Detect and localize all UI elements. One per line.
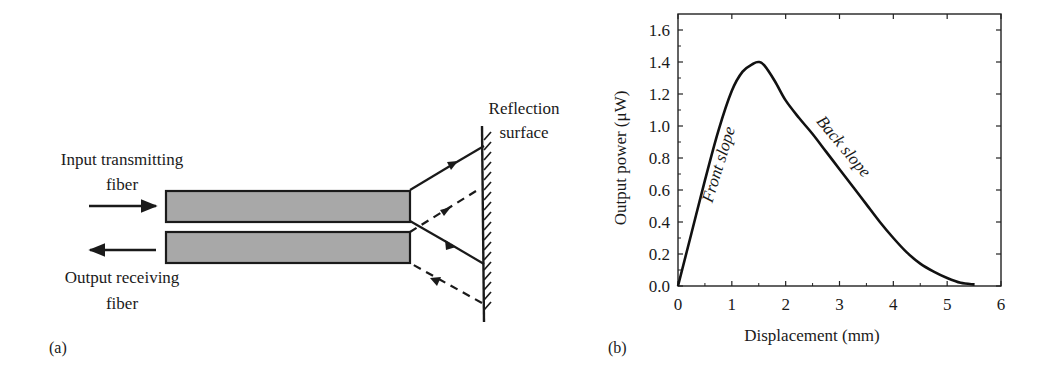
x-tick-label: 5 [943, 295, 952, 314]
x-tick-label: 6 [997, 295, 1006, 314]
y-tick-label: 1.2 [649, 85, 670, 104]
x-tick-label: 1 [728, 295, 737, 314]
y-axis-label: Output power (μW) [611, 91, 630, 226]
front-slope-annotation: Front slope [698, 124, 739, 206]
y-tick-label: 0.2 [649, 245, 670, 264]
y-tick-label: 0.6 [649, 181, 670, 200]
y-tick-label: 0.4 [649, 213, 671, 232]
panel-b-label: (b) [608, 339, 627, 357]
y-tick-label: 1.6 [649, 21, 670, 40]
x-tick-label: 2 [781, 295, 790, 314]
x-tick-label: 3 [835, 295, 844, 314]
x-tick-label: 4 [889, 295, 898, 314]
x-axis-label: Displacement (mm) [744, 326, 880, 345]
y-tick-label: 1.4 [649, 53, 671, 72]
panel-b-chart: 01234560.00.20.40.60.81.01.21.41.6 Front… [0, 0, 1048, 372]
y-tick-label: 0.0 [649, 277, 670, 296]
y-tick-label: 1.0 [649, 117, 670, 136]
chart-axes: 01234560.00.20.40.60.81.01.21.41.6 [649, 14, 1006, 314]
x-tick-label: 0 [674, 295, 683, 314]
y-tick-label: 0.8 [649, 149, 670, 168]
